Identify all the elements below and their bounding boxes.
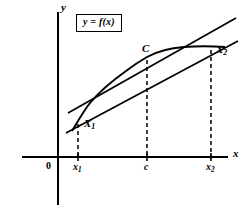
x-tick-label-x2-sub: 2 [211, 166, 215, 174]
curve-point-label-C: C [142, 43, 149, 56]
curve-point-label-X2-sub: 2 [223, 48, 227, 57]
y-axis-label: y [61, 2, 66, 13]
equation-label-box: y = f(x) [76, 14, 122, 32]
origin-label: 0 [46, 161, 51, 171]
x-tick-label-c: c [144, 162, 148, 174]
x-tick-label-x1-sub: 1 [78, 166, 82, 174]
curve-point-label-C-text: C [142, 42, 149, 54]
figure-canvas [0, 0, 252, 214]
curve-point-label-X1-sub: 1 [91, 122, 95, 131]
function-concavity-figure: y = f(x) y x 0 x1 c x2 X1 C X2 [0, 0, 252, 214]
x-tick-label-x2: x2 [206, 162, 215, 174]
x-axis-label: x [233, 148, 239, 159]
x-tick-label-x1: x1 [73, 162, 82, 174]
curve-point-label-X2: X2 [216, 44, 227, 57]
x-tick-label-c-text: c [144, 161, 148, 172]
curve-point-label-X1: X1 [84, 118, 95, 131]
